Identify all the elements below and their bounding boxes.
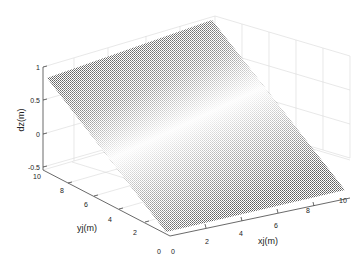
surface-plot: 1 0.5 0 -0.5 10 8 6 4 2 0 0 2 4 6 8 10 d… [0, 0, 358, 272]
z-tick-labels: 1 0.5 0 -0.5 [28, 64, 40, 171]
y-axis-label: yj(m) [77, 223, 97, 233]
y-tick: 8 [60, 187, 64, 194]
z-tick: -0.5 [28, 164, 40, 171]
x-tick: 6 [274, 222, 278, 229]
x-axis-label: xj(m) [258, 236, 278, 246]
x-tick: 10 [339, 197, 347, 204]
y-tick: 2 [133, 229, 137, 236]
z-axis-label: dz(m) [16, 109, 26, 132]
y-tick: 0 [157, 248, 161, 255]
z-tick: 0 [36, 131, 40, 138]
x-tick: 2 [205, 238, 209, 245]
z-tick: 0.5 [30, 97, 40, 104]
z-tick: 1 [36, 64, 40, 71]
surface-mesh [47, 20, 345, 232]
x-tick: 8 [306, 207, 310, 214]
x-tick: 4 [239, 230, 243, 237]
y-tick: 10 [33, 173, 41, 180]
y-tick: 6 [84, 201, 88, 208]
y-tick: 4 [108, 216, 112, 223]
x-tick: 0 [171, 248, 175, 255]
